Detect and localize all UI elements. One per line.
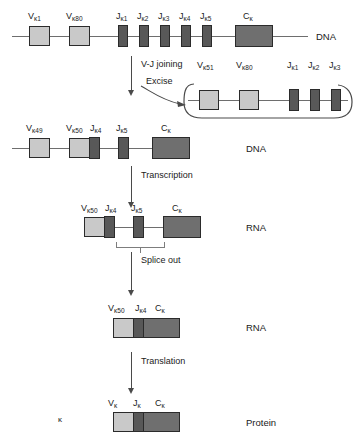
segment-V-kappa-row5	[113, 412, 134, 432]
side-label-rna-row4: RNA	[246, 323, 266, 333]
label-V-kappa-row5: Vκ	[108, 399, 117, 408]
step-label-transcription: Transcription	[141, 171, 193, 180]
arrow-vj-joining-head	[128, 90, 134, 96]
segment-J-kappa-4-row2	[89, 137, 100, 159]
gap-dots-row1-a	[52, 36, 68, 37]
gap-dots-circle-b	[261, 100, 277, 101]
side-label-protein: Protein	[246, 418, 276, 428]
segment-circle-J-kappa-1	[289, 89, 299, 111]
segment-V-kappa-50-row4	[113, 318, 134, 338]
segment-C-kappa-row1	[235, 25, 273, 47]
arrow-translation-line	[131, 352, 132, 390]
label-V-kappa-50-row2: Vκ50	[66, 124, 83, 133]
label-J-kappa-5-row2: Jκ5	[116, 124, 127, 133]
label-C-kappa-row1: Cκ	[243, 12, 253, 21]
segment-J-kappa-3	[160, 25, 170, 47]
segment-J-kappa-4-row3	[104, 216, 115, 238]
label-circle-J-kappa-1: Jκ1	[287, 61, 298, 70]
arrow-splice-head	[128, 290, 134, 296]
segment-C-kappa-row4	[143, 318, 180, 338]
arrow-transcription-line	[131, 166, 132, 204]
label-circle-J-kappa-2: Jκ2	[308, 61, 319, 70]
segment-J-kappa-5-row2	[118, 137, 129, 159]
segment-J-kappa-5-row3	[133, 216, 144, 238]
label-J-kappa-4-row4: Jκ4	[135, 304, 146, 313]
label-circle-V-kappa-80: Vκ80	[236, 61, 253, 70]
segment-circle-V-kappa-80	[239, 90, 259, 110]
figure-canvas: Vκ1 Vκ80 Jκ1 Jκ2 Jκ3 Jκ4 Jκ5 Cκ DNA V-J …	[0, 0, 358, 443]
arrow-vj-joining-line	[131, 56, 132, 92]
segment-J-kappa-5	[202, 25, 212, 47]
segment-J-kappa-2	[139, 25, 149, 47]
label-J-kappa-4: Jκ4	[179, 12, 190, 21]
segment-V-kappa-49	[29, 138, 50, 158]
segment-C-kappa-row2	[152, 137, 190, 159]
label-V-kappa-49: Vκ49	[26, 124, 43, 133]
side-label-dna-row2: DNA	[246, 144, 266, 154]
label-J-kappa-5-row3: Jκ5	[131, 204, 142, 213]
segment-circle-V-kappa-51	[199, 90, 219, 110]
label-J-kappa-row5: Jκ	[133, 399, 141, 408]
label-kappa-chain: κ	[58, 416, 62, 424]
segment-J-kappa-4	[181, 25, 191, 47]
label-circle-V-kappa-51: Vκ51	[197, 61, 214, 70]
label-V-kappa-1: Vκ1	[28, 12, 41, 21]
arrow-splice-line	[131, 252, 132, 292]
segment-V-kappa-1	[29, 26, 50, 46]
label-V-kappa-50-row3: Vκ50	[81, 204, 98, 213]
step-label-splice-out: Splice out	[141, 256, 181, 265]
segment-circle-J-kappa-3	[331, 89, 341, 111]
segment-C-kappa-row5	[143, 412, 180, 432]
label-J-kappa-4-row3: Jκ4	[105, 204, 116, 213]
arrow-translation-head	[128, 388, 134, 394]
label-C-kappa-row5: Cκ	[155, 399, 165, 408]
label-C-kappa-row3: Cκ	[172, 204, 182, 213]
step-label-vj-joining: V-J joining	[141, 60, 183, 69]
label-V-kappa-80: Vκ80	[66, 12, 83, 21]
label-C-kappa-row2: Cκ	[161, 124, 171, 133]
segment-V-kappa-50-row3	[84, 217, 105, 237]
segment-circle-J-kappa-2	[310, 89, 320, 111]
label-J-kappa-3: Jκ3	[158, 12, 169, 21]
label-J-kappa-2: Jκ2	[137, 12, 148, 21]
segment-C-kappa-row3	[163, 216, 201, 238]
label-circle-J-kappa-3: Jκ3	[329, 61, 340, 70]
segment-V-kappa-80	[69, 26, 90, 46]
splice-bracket-stem	[140, 248, 141, 253]
label-J-kappa-1: Jκ1	[116, 12, 127, 21]
gap-dots-circle-a	[221, 100, 237, 101]
label-V-kappa-50-row4: Vκ50	[108, 304, 125, 313]
step-label-translation: Translation	[141, 357, 185, 366]
side-label-dna-row1: DNA	[316, 32, 336, 42]
side-label-rna-row3: RNA	[246, 223, 266, 233]
label-J-kappa-5: Jκ5	[200, 12, 211, 21]
label-C-kappa-row4: Cκ	[155, 304, 165, 313]
segment-V-kappa-50-row2	[69, 138, 90, 158]
segment-J-kappa-1	[118, 25, 128, 47]
label-J-kappa-4-row2: Jκ4	[90, 124, 101, 133]
